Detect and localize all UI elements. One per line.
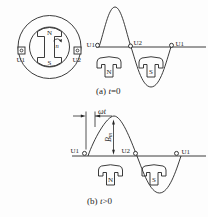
phase-dimension: ωt (73, 107, 112, 150)
pole-s-label-a: S (149, 68, 153, 76)
point-u1-right-b (175, 151, 179, 155)
pole-n-label-b: N (108, 176, 113, 184)
caption-a: (a)t=0 (96, 86, 121, 96)
terminal-left-box (18, 47, 25, 54)
figure-rotating-field-diagram: N S n U1 U2 N S U1 U2 U1 (a)t=0 (0, 0, 208, 217)
terminal-left-label: U1 (17, 56, 26, 64)
waveform-panel-a: N S U1 U2 U1 (a)t=0 (86, 7, 206, 96)
rotor-pole-n-label: N (47, 29, 52, 37)
point-u2-label-b: U2 (122, 147, 131, 155)
pole-shoe-n-b: N (99, 165, 123, 185)
pole-shoe-s-a: S (139, 57, 163, 77)
stator-machine: N S n U1 U2 (17, 16, 82, 79)
point-u2-label-a: U2 (134, 39, 143, 47)
caption-b: (b)t>0 (87, 196, 113, 206)
rotor-pole-s-label: S (48, 59, 52, 67)
pole-n-label-a: N (106, 68, 111, 76)
terminal-right-box (74, 47, 81, 54)
amplitude-arrow-top-icon (112, 120, 115, 125)
stator-outer-circle (18, 16, 81, 79)
pole-s-label-b: S (152, 176, 156, 184)
point-u1-left-label-a: U1 (86, 41, 95, 49)
amplitude-arrow: Bm (104, 120, 115, 155)
dimension-arrow-left-icon (81, 115, 86, 118)
point-u1-left-b (83, 151, 87, 155)
terminal-right-label: U2 (73, 56, 82, 64)
point-u1-right-a (170, 43, 174, 47)
waveform-panel-b: N S ωt Bm U1 U2 U1 (71, 107, 207, 207)
point-u2-b (134, 151, 138, 155)
point-u1-left-a (96, 43, 100, 47)
phase-shift-label: ωt (98, 107, 107, 116)
point-u2-a (129, 44, 133, 48)
figure-canvas: N S n U1 U2 N S U1 U2 U1 (a)t=0 (0, 0, 208, 217)
point-u1-right-label-b: U1 (182, 148, 191, 156)
pole-shoe-s-b: S (142, 165, 166, 185)
point-u1-right-label-a: U1 (176, 40, 185, 48)
amplitude-label: Bm (104, 133, 114, 142)
point-u1-left-label-b: U1 (71, 147, 80, 155)
rotation-speed-label: n (56, 42, 59, 49)
amplitude-arrow-bottom-icon (112, 150, 115, 155)
pole-shoe-n-a: N (97, 57, 121, 77)
